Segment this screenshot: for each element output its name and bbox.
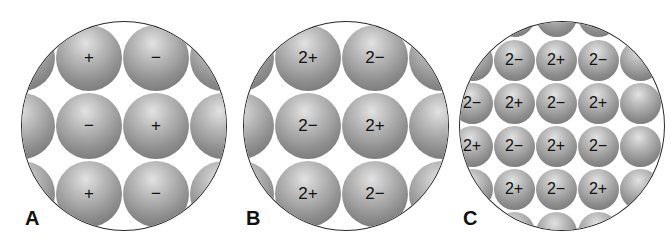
ion-charge-label: 2− bbox=[589, 51, 607, 69]
ion-sphere-partial bbox=[620, 83, 661, 124]
ion-sphere: 2− bbox=[342, 161, 408, 227]
ion-sphere-partial bbox=[620, 40, 661, 81]
ion-charge-label: 2+ bbox=[589, 94, 607, 112]
ion-sphere: + bbox=[123, 93, 189, 159]
ion-sphere-partial bbox=[620, 212, 661, 232]
ion-sphere: − bbox=[56, 93, 122, 159]
panel-c-ion-lattice: 2+2−2+2−2−2+2−2+2+2−2+2−2−2+2−2+ bbox=[459, 21, 665, 231]
ion-charge-label: + bbox=[84, 184, 94, 204]
ion-sphere: 2− bbox=[536, 83, 577, 124]
panel-a-ion-lattice: +−−++− bbox=[21, 21, 227, 231]
ion-sphere-partial bbox=[409, 93, 449, 159]
ion-charge-label: 2+ bbox=[547, 51, 565, 69]
ion-sphere: 2+ bbox=[494, 83, 535, 124]
ion-sphere-partial bbox=[620, 21, 661, 37]
ion-charge-label: 2+ bbox=[547, 137, 565, 155]
ion-charge-label: 2+ bbox=[365, 116, 384, 136]
ion-sphere-partial bbox=[190, 25, 227, 91]
ion-sphere-partial bbox=[409, 25, 449, 91]
ion-charge-label: − bbox=[151, 48, 161, 68]
ion-charge-label: 2− bbox=[589, 137, 607, 155]
ion-sphere: 2+ bbox=[536, 126, 577, 167]
panel-c-label: C bbox=[463, 207, 477, 230]
ion-charge-label: − bbox=[151, 184, 161, 204]
ion-sphere: 2− bbox=[342, 25, 408, 91]
ion-sphere: 2− bbox=[275, 93, 341, 159]
ion-sphere-partial bbox=[620, 126, 661, 167]
ion-sphere-partial bbox=[620, 169, 661, 210]
ion-sphere: 2− bbox=[494, 40, 535, 81]
ion-sphere-partial bbox=[494, 212, 535, 232]
ion-sphere-partial bbox=[243, 93, 274, 159]
ion-charge-label: 2+ bbox=[505, 180, 523, 198]
ion-sphere: 2+ bbox=[275, 25, 341, 91]
ion-charge-label: 2− bbox=[365, 48, 384, 68]
ion-charge-label: 2+ bbox=[463, 51, 481, 69]
ion-sphere-partial bbox=[243, 25, 274, 91]
ion-sphere: 2− bbox=[578, 126, 619, 167]
ion-sphere-partial bbox=[190, 93, 227, 159]
ion-sphere: 2− bbox=[459, 169, 493, 210]
ion-charge-label: 2− bbox=[463, 180, 481, 198]
ion-sphere: + bbox=[56, 25, 122, 91]
ion-sphere: 2+ bbox=[459, 40, 493, 81]
ion-charge-label: 2− bbox=[298, 116, 317, 136]
ion-charge-label: 2+ bbox=[463, 137, 481, 155]
ion-charge-label: 2− bbox=[505, 137, 523, 155]
ion-sphere-partial bbox=[21, 25, 55, 91]
ion-sphere: − bbox=[123, 161, 189, 227]
ion-sphere: 2− bbox=[578, 40, 619, 81]
ion-sphere: 2+ bbox=[578, 83, 619, 124]
ion-sphere: 2+ bbox=[342, 93, 408, 159]
ion-sphere-partial bbox=[459, 21, 493, 37]
ion-charge-label: 2− bbox=[365, 184, 384, 204]
ion-charge-label: + bbox=[151, 116, 161, 136]
ion-sphere-partial bbox=[536, 212, 577, 232]
ion-sphere: + bbox=[56, 161, 122, 227]
ion-sphere: 2+ bbox=[459, 126, 493, 167]
ion-sphere: 2+ bbox=[578, 169, 619, 210]
ion-sphere: 2− bbox=[459, 83, 493, 124]
panel-a-label: A bbox=[25, 207, 39, 230]
ion-charge-label: 2− bbox=[505, 51, 523, 69]
panel-b-label: B bbox=[246, 207, 260, 230]
ion-sphere-partial bbox=[409, 161, 449, 227]
ion-sphere: 2− bbox=[494, 126, 535, 167]
ion-sphere: 2+ bbox=[536, 40, 577, 81]
ion-sphere-partial bbox=[536, 21, 577, 37]
ion-charge-label: 2− bbox=[463, 94, 481, 112]
ion-sphere-partial bbox=[578, 21, 619, 37]
ion-charge-label: 2+ bbox=[589, 180, 607, 198]
ion-sphere-partial bbox=[190, 161, 227, 227]
ion-charge-label: + bbox=[84, 48, 94, 68]
ion-charge-label: 2+ bbox=[505, 94, 523, 112]
ion-sphere: 2− bbox=[536, 169, 577, 210]
ion-charge-label: 2+ bbox=[298, 48, 317, 68]
ion-charge-label: 2+ bbox=[298, 184, 317, 204]
ion-sphere: 2+ bbox=[275, 161, 341, 227]
panel-b-ion-lattice: 2+2−2−2+2+2− bbox=[243, 21, 449, 231]
ion-sphere: 2+ bbox=[494, 169, 535, 210]
ion-charge-label: 2− bbox=[547, 180, 565, 198]
ion-sphere-partial bbox=[578, 212, 619, 232]
ion-sphere-partial bbox=[21, 93, 55, 159]
ion-sphere-partial bbox=[494, 21, 535, 37]
ion-charge-label: − bbox=[84, 116, 94, 136]
ion-charge-label: 2− bbox=[547, 94, 565, 112]
ion-sphere: − bbox=[123, 25, 189, 91]
